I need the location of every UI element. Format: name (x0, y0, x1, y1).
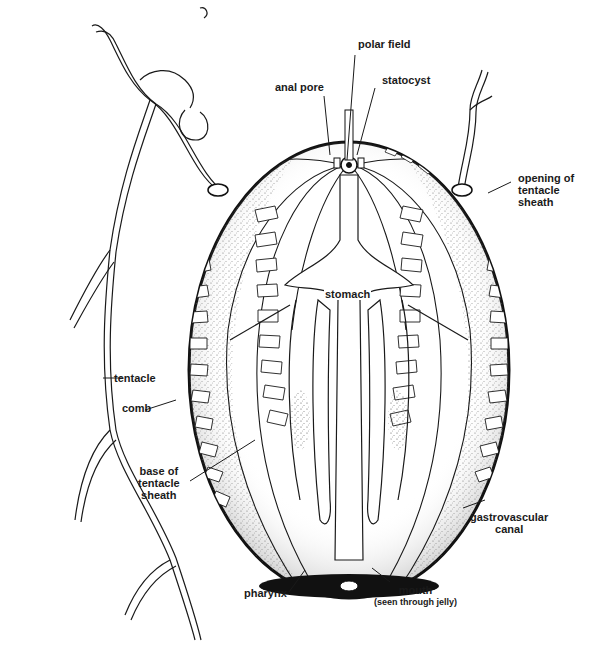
label-base-of-tentacle-sheath: base of tentacle sheath (138, 465, 180, 501)
label-stomach: stomach (324, 288, 371, 300)
label-mouth: mouth (seen through jelly) (374, 584, 457, 608)
tentacle-right (458, 70, 492, 190)
label-pharynx: pharynx (244, 587, 287, 599)
label-anal-pore: anal pore (275, 81, 324, 93)
label-statocyst: statocyst (382, 74, 430, 86)
label-gastrovascular-canal: gastrovascular canal (470, 511, 548, 535)
ctenophore-illustration (0, 0, 604, 653)
label-opening-of-tentacle-sheath: opening of tentacle sheath (518, 172, 574, 208)
ctenophore-diagram: polar field statocyst anal pore opening … (0, 0, 604, 653)
label-polar-field: polar field (358, 38, 411, 50)
label-tentacle: tentacle (114, 372, 156, 384)
tentacle-sheath-opening-right (452, 184, 472, 196)
tentacle-sheath-opening-left (208, 184, 228, 196)
label-comb: comb (122, 402, 151, 414)
label-mouth-note: (seen through jelly) (374, 596, 457, 608)
